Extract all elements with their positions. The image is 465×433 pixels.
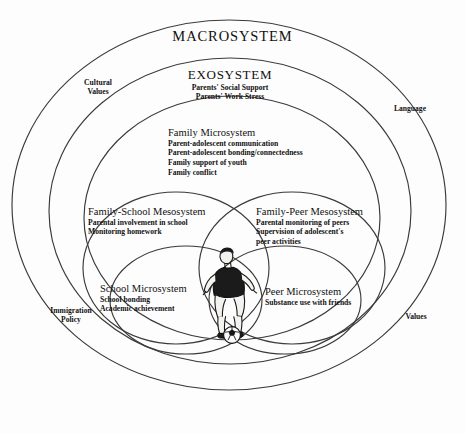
macro-label-immigration-policy: Immigration Policy [29, 306, 113, 325]
family-microsystem-item: Family support of youth [168, 158, 398, 168]
exosystem-item: Parents' Social Support [130, 83, 330, 93]
family-school-mesosystem-group: Family-School Mesosystem Parental involv… [88, 206, 258, 237]
macro-label-line: Values [376, 312, 456, 321]
family-microsystem-item: Parent-adolescent bonding/connectedness [168, 148, 398, 158]
family-microsystem-item: Family conflict [168, 168, 398, 178]
macro-label-line: Cultural [58, 78, 138, 87]
family-peer-mesosystem-item: Supervision of adolescent's [256, 227, 426, 237]
peer-microsystem-item: Substance use with friends [265, 298, 425, 308]
ecological-systems-diagram: MACROSYSTEM EXOSYSTEM Parents' Social Su… [0, 0, 465, 433]
family-microsystem-item: Parent-adolescent communication [168, 139, 398, 149]
macro-label-line: Policy [29, 315, 113, 324]
peer-microsystem-group: Peer Microsystem Substance use with frie… [265, 286, 425, 307]
family-school-mesosystem-title: Family-School Mesosystem [88, 206, 258, 218]
family-school-mesosystem-item: Parental involvement in school [88, 218, 258, 228]
adolescent-soccer-player-icon [196, 243, 268, 345]
peer-microsystem-title: Peer Microsystem [265, 286, 425, 298]
macro-label-values: Values [376, 312, 456, 321]
exosystem-title: EXOSYSTEM [130, 68, 330, 83]
family-microsystem-group: Family Microsystem Parent-adolescent com… [168, 127, 398, 178]
exosystem-item: Parents' Work Stress [130, 92, 330, 102]
family-microsystem-title: Family Microsystem [168, 127, 398, 139]
macro-label-line: Immigration [29, 306, 113, 315]
macro-label-cultural-values: Cultural Values [58, 78, 138, 97]
soccer-player-illustration [196, 243, 268, 345]
family-peer-mesosystem-group: Family-Peer Mesosystem Parental monitori… [256, 206, 426, 247]
family-peer-mesosystem-title: Family-Peer Mesosystem [256, 206, 426, 218]
family-school-mesosystem-item: Monitoring homework [88, 227, 258, 237]
macrosystem-title: MACROSYSTEM [0, 28, 465, 44]
family-peer-mesosystem-item: Parental monitoring of peers [256, 218, 426, 228]
family-peer-mesosystem-item: peer activities [256, 237, 426, 247]
exosystem-group: EXOSYSTEM Parents' Social Support Parent… [130, 68, 330, 102]
macro-label-language: Language [370, 104, 450, 113]
macro-label-line: Values [58, 87, 138, 96]
macro-label-line: Language [370, 104, 450, 113]
